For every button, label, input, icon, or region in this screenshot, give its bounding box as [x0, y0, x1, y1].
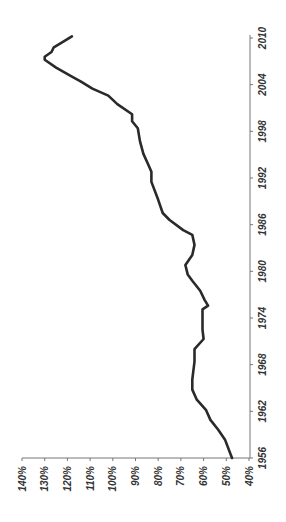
percent-tick-label: 110% — [85, 466, 96, 491]
percent-tick-label: 70% — [175, 466, 186, 486]
year-tick-label: 1986 — [257, 213, 268, 236]
percent-tick-label: 100% — [107, 466, 118, 492]
percent-tick-label: 130% — [39, 466, 50, 492]
percent-tick-label: 80% — [153, 466, 164, 486]
year-tick-label: 1974 — [257, 306, 268, 329]
percent-tick-label: 140% — [17, 466, 28, 492]
year-tick-label: 1956 — [257, 446, 268, 469]
year-tick-label: 1962 — [257, 400, 268, 423]
chart-axes — [22, 35, 253, 461]
percent-axis-labels: 40%50%60%70%80%90%100%110%120%130%140% — [17, 466, 255, 492]
year-axis-labels: 1956196219681974198019861992199820042010 — [257, 26, 268, 469]
year-tick-label: 1992 — [257, 166, 268, 189]
series-line — [45, 36, 232, 458]
year-tick-label: 1998 — [257, 120, 268, 143]
percent-tick-label: 50% — [221, 466, 232, 486]
percent-tick-label: 40% — [244, 466, 255, 487]
percent-tick-label: 90% — [130, 466, 141, 486]
year-tick-label: 2010 — [257, 26, 268, 50]
year-tick-label: 1980 — [257, 260, 268, 283]
line-chart: 1956196219681974198019861992199820042010… — [0, 0, 286, 522]
percent-tick-label: 60% — [198, 466, 209, 486]
year-tick-label: 1968 — [257, 353, 268, 376]
percent-tick-label: 120% — [62, 466, 73, 492]
year-tick-label: 2004 — [257, 73, 268, 97]
